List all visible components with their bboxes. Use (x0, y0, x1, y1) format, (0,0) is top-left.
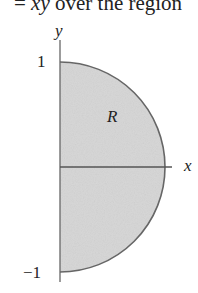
y-axis-label: y (55, 22, 63, 39)
tick-label-top: 1 (37, 53, 46, 70)
region-diagram (0, 0, 198, 293)
tick-label-bottom: −1 (23, 264, 41, 281)
region-label: R (107, 108, 117, 125)
x-axis-label: x (184, 157, 192, 174)
